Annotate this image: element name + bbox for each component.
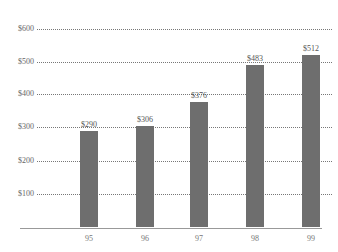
gridline-500 — [37, 62, 332, 63]
bar-97 — [190, 102, 208, 227]
bar-95 — [80, 131, 98, 227]
y-tick-500: $500 — [18, 57, 34, 67]
y-tick-200: $200 — [18, 156, 34, 166]
x-tick-97: 97 — [184, 234, 214, 244]
bar-chart: $600 $500 $400 $300 $200 $100 $290 $306 … — [0, 0, 338, 252]
value-label-98: $483 — [240, 54, 270, 64]
x-tick-98: 98 — [240, 234, 270, 244]
value-label-97: $376 — [184, 91, 214, 101]
value-label-95: $290 — [74, 120, 104, 130]
value-label-99: $512 — [296, 44, 326, 54]
y-tick-300: $300 — [18, 122, 34, 132]
y-tick-400: $400 — [18, 89, 34, 99]
bar-98 — [246, 65, 264, 227]
gridline-600 — [37, 29, 332, 30]
x-tick-96: 96 — [130, 234, 160, 244]
bar-99 — [302, 55, 320, 227]
x-tick-99: 99 — [296, 234, 326, 244]
bar-96 — [136, 126, 154, 227]
y-tick-600: $600 — [18, 24, 34, 34]
x-axis-line-right — [150, 228, 322, 229]
value-label-96: $306 — [130, 115, 160, 125]
x-axis-line — [20, 228, 150, 229]
x-tick-95: 95 — [74, 234, 104, 244]
y-tick-100: $100 — [18, 189, 34, 199]
